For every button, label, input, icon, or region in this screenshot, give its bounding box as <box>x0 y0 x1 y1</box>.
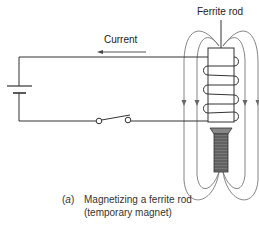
screw-icon <box>210 128 232 172</box>
caption-line-2: (temporary magnet) <box>84 206 172 219</box>
caption-marker: (a) <box>62 194 74 205</box>
switch-icon <box>96 115 131 124</box>
caption-line-1: Magnetizing a ferrite rod <box>84 193 192 206</box>
current-arrow-icon <box>97 50 146 54</box>
circuit-wires <box>19 57 226 121</box>
ferrite-rod-label: Ferrite rod <box>197 6 243 17</box>
current-label: Current <box>104 34 137 45</box>
battery-icon <box>7 86 32 93</box>
figure-caption: (a) <box>62 193 74 206</box>
